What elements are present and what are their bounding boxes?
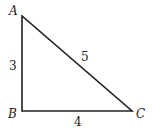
- side-label-ac: 5: [81, 50, 89, 64]
- vertex-label-b: B: [7, 107, 17, 121]
- vertex-label-a: A: [8, 4, 18, 18]
- triangle-abc: [22, 16, 132, 111]
- side-label-bc: 4: [74, 115, 82, 129]
- side-label-ab: 3: [9, 59, 17, 73]
- triangle-diagram: A B C 3 5 4: [0, 0, 152, 130]
- vertex-label-c: C: [136, 107, 145, 121]
